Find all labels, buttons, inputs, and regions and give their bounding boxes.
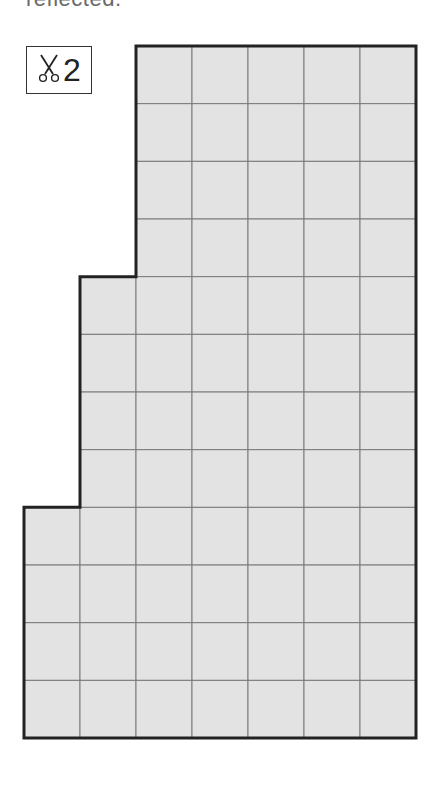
grid-cell xyxy=(136,104,192,162)
grid-cell xyxy=(136,219,192,277)
grid-cell xyxy=(360,450,416,508)
grid-cell xyxy=(80,392,136,450)
grid-cell xyxy=(192,161,248,219)
grid-cell xyxy=(304,334,360,392)
grid-cell xyxy=(248,565,304,623)
grid-cell xyxy=(304,565,360,623)
grid-cell xyxy=(136,680,192,738)
grid-cell xyxy=(80,507,136,565)
grid-cell xyxy=(192,46,248,104)
grid-cell xyxy=(136,623,192,681)
grid-cell xyxy=(360,623,416,681)
grid-cell xyxy=(248,104,304,162)
grid-cell xyxy=(80,680,136,738)
grid-cell xyxy=(248,450,304,508)
grid-cell xyxy=(136,450,192,508)
grid-cell xyxy=(136,161,192,219)
grid-cell xyxy=(136,507,192,565)
grid-cell xyxy=(304,104,360,162)
grid-cell xyxy=(192,450,248,508)
grid-cell xyxy=(136,277,192,335)
grid-cell xyxy=(192,507,248,565)
grid-cell xyxy=(248,623,304,681)
grid-cell xyxy=(192,565,248,623)
grid-cell xyxy=(24,623,80,681)
grid-cell xyxy=(304,507,360,565)
grid-cell xyxy=(360,219,416,277)
grid-cell xyxy=(136,46,192,104)
grid-cell xyxy=(304,161,360,219)
grid-cell xyxy=(304,623,360,681)
grid-cell xyxy=(304,680,360,738)
grid-cell xyxy=(192,680,248,738)
grid-cell xyxy=(24,565,80,623)
grid-cell xyxy=(360,277,416,335)
grid-cell xyxy=(248,392,304,450)
grid-cell xyxy=(136,565,192,623)
grid-cell xyxy=(192,623,248,681)
grid-cell xyxy=(360,104,416,162)
grid-cell xyxy=(248,680,304,738)
grid-cell xyxy=(248,277,304,335)
grid-cell xyxy=(304,46,360,104)
grid-cell xyxy=(192,392,248,450)
grid-cell xyxy=(192,219,248,277)
staircase-grid-figure xyxy=(0,0,443,785)
grid-cell xyxy=(136,392,192,450)
grid-cell xyxy=(360,507,416,565)
grid-cell xyxy=(304,392,360,450)
grid-cell xyxy=(360,680,416,738)
grid-cell xyxy=(360,161,416,219)
grid-cell xyxy=(80,277,136,335)
grid-cell xyxy=(192,334,248,392)
grid-cell xyxy=(80,623,136,681)
grid-cell xyxy=(24,680,80,738)
grid-cell xyxy=(136,334,192,392)
grid-cell xyxy=(248,507,304,565)
grid-cell xyxy=(80,565,136,623)
grid-cell xyxy=(304,450,360,508)
grid-cell xyxy=(360,392,416,450)
grid-cell xyxy=(248,219,304,277)
grid-cell xyxy=(360,334,416,392)
grid-cell xyxy=(248,161,304,219)
grid-cell xyxy=(80,450,136,508)
grid-cell xyxy=(192,277,248,335)
grid-cell xyxy=(192,104,248,162)
grid-cell xyxy=(248,334,304,392)
grid-cell xyxy=(80,334,136,392)
grid-cell xyxy=(360,46,416,104)
grid-cell xyxy=(24,507,80,565)
grid-cell xyxy=(304,219,360,277)
grid-cell xyxy=(304,277,360,335)
grid-cell xyxy=(360,565,416,623)
grid-cell xyxy=(248,46,304,104)
